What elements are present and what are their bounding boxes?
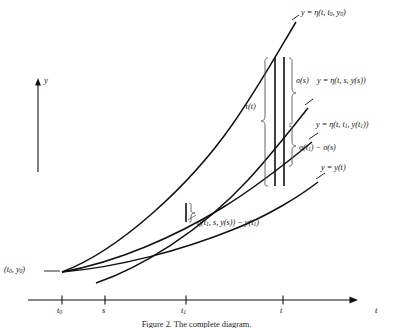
tick-label-t-text: t (280, 306, 282, 315)
brace-sigma-s (289, 58, 296, 124)
curve-label-eta-t0-y0-c: ) (343, 8, 346, 17)
origin-point-label: (t0, y0) (4, 266, 25, 274)
tick-label-s-text: s (102, 306, 105, 315)
figure-caption: Figure 2. The complete diagram. (0, 321, 393, 328)
annotation-tau: τ(t) (245, 103, 256, 111)
curve-label-eta-t1-yt1-c: )) (363, 120, 368, 129)
curve-label-eta-t1-yt1-b: , y(t (347, 120, 360, 129)
curve-label-eta-s-ys: y = η(t, s, y(s)) (317, 77, 366, 85)
leader-line-eta-t1-yt1 (309, 133, 318, 139)
annotation-sigma-diff: σ(t1) − σ(s) (299, 144, 336, 152)
figure-container: y t y = η(t, t0, y0) σ(s) y = η(t, s, y(… (0, 0, 393, 328)
curve-label-eta-t1-yt1: y = η(t, t1, y(t1)) (316, 121, 368, 129)
tick-label-t1: t1 (181, 307, 186, 315)
x-axis (28, 296, 358, 305)
curve-eta-t0-y0 (62, 22, 296, 272)
leader-line-eta-s-ys (305, 99, 313, 105)
y-axis-label: y (44, 76, 48, 85)
annotation-sigma-diff-a: σ(t (299, 143, 308, 152)
leader-line-eta-t0-y0 (292, 15, 299, 20)
annotation-sigma-diff-b: ) − σ(s) (311, 143, 336, 152)
origin-point-label-b: , y (12, 265, 20, 274)
curve-y-of-t (62, 182, 318, 272)
curve-label-eta-t1-yt1-a: y = η(t, t (316, 120, 345, 129)
annotation-eta-minus-y-a: η(t (197, 218, 206, 227)
origin-point-label-c: ) (22, 265, 25, 274)
curve-eta-s-ys (96, 108, 308, 283)
leader-line-eta-minus-y (188, 215, 196, 220)
annotation-eta-minus-y: η(t1, s, y(s)) − y(t1) (197, 219, 259, 227)
annotation-eta-minus-y-c: ) (256, 218, 259, 227)
tick-label-t1-sub: 1 (183, 309, 186, 315)
curve-label-y-of-t-a: y = y(t) (321, 163, 346, 172)
leader-line-y-of-t (316, 173, 325, 179)
curve-label-eta-t0-y0-a: y = η(t, t (301, 8, 330, 17)
curve-label-eta-t0-y0: y = η(t, t0, y0) (301, 9, 346, 17)
curve-label-y-of-t: y = y(t) (321, 164, 346, 172)
y-axis (35, 78, 41, 172)
brace-tau (261, 58, 268, 186)
tick-label-t0: t0 (57, 307, 62, 315)
tick-label-t: t (280, 307, 282, 315)
annotation-eta-minus-y-b: , s, y(s)) − y(t (209, 218, 254, 227)
curve-label-eta-s-ys-a: y = η(t, s, y(s)) (317, 76, 366, 85)
tick-label-t0-sub: 0 (59, 309, 62, 315)
tick-label-s: s (102, 307, 105, 315)
x-axis-label: t (375, 306, 377, 315)
annotation-sigma-s: σ(s) (296, 77, 309, 85)
